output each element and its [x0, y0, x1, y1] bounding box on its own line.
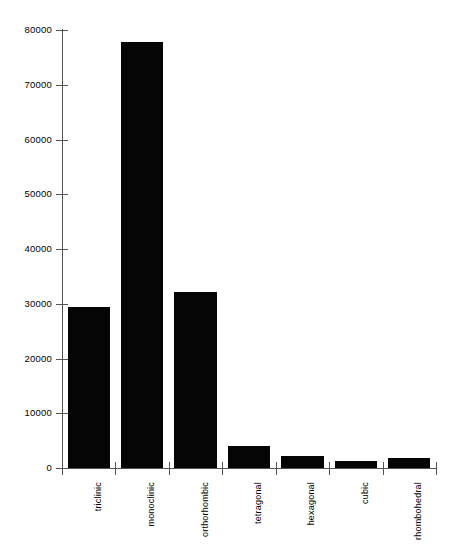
x-axis-tick-label: cubic — [360, 482, 370, 504]
x-axis-tick-label: triclinic — [93, 482, 103, 511]
y-axis-tick-label: 30000 — [25, 299, 52, 309]
x-axis-tick-label: hexagonal — [306, 482, 316, 525]
x-axis-tick-label: orthorhombic — [200, 482, 210, 537]
bar[interactable] — [68, 307, 110, 468]
bar-chart: 0100002000030000400005000060000700008000… — [0, 0, 451, 555]
x-axis-tick-label: rhombohedral — [413, 482, 423, 540]
y-axis-tick-label: 70000 — [25, 80, 52, 90]
x-axis-tick-mark — [436, 462, 437, 475]
x-axis-line — [62, 468, 437, 469]
x-axis-tick-label: tetragonal — [253, 482, 263, 524]
y-axis-tick-label: 0 — [47, 463, 52, 473]
bar[interactable] — [174, 292, 216, 468]
y-axis-tick-label: 80000 — [25, 25, 52, 35]
y-axis-tick-label: 20000 — [25, 354, 52, 364]
bar[interactable] — [121, 42, 163, 468]
bar[interactable] — [335, 461, 377, 468]
bar[interactable] — [388, 458, 430, 468]
y-axis-tick-label: 60000 — [25, 135, 52, 145]
plot-area — [62, 30, 436, 468]
x-axis-tick-label: monoclinic — [146, 482, 156, 527]
bar[interactable] — [281, 456, 323, 468]
y-axis-tick-label: 50000 — [25, 189, 52, 199]
y-axis-tick-label: 40000 — [25, 244, 52, 254]
bar[interactable] — [228, 446, 270, 468]
y-axis-tick-label: 10000 — [25, 408, 52, 418]
